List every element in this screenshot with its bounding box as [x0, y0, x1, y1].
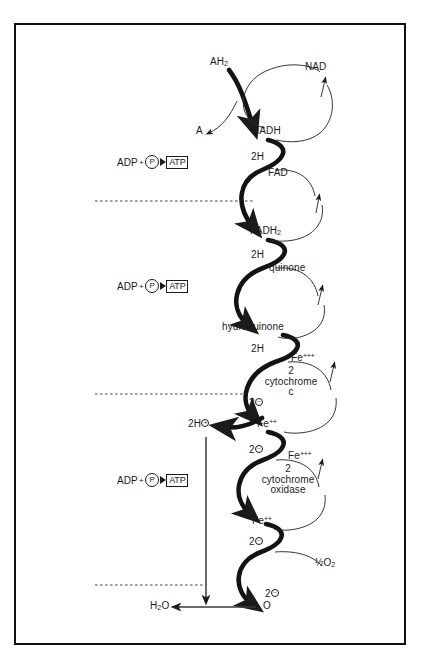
label-nadh: NADH: [252, 126, 281, 137]
plus-sign: +: [139, 476, 144, 485]
label-fe2-cytc: Fe++: [257, 418, 276, 429]
plus-sign: +: [139, 158, 144, 167]
label-fe2-cytox: Fe++: [252, 515, 271, 526]
label-2e-second: 2−: [249, 445, 263, 456]
label-quinone: quinone: [269, 263, 305, 274]
cytox-return: [274, 495, 325, 530]
nad-loop-upper: [243, 65, 320, 128]
atp-label: ATP: [166, 280, 188, 293]
nad-return-arrow: [276, 85, 332, 142]
label-2e-first: 2−: [249, 398, 263, 409]
diagram-pathways: [0, 0, 421, 665]
adp-label: ADP: [117, 157, 138, 168]
figure-root: AH2 A NAD NADH 2H FAD FADH2 2H quinone h…: [0, 0, 421, 665]
label-2h-second: 2H: [251, 250, 264, 261]
minus-charge-icon: −: [255, 537, 263, 545]
label-nad: NAD: [305, 62, 326, 73]
terminal-arrows: [176, 437, 256, 607]
label-fadh2: FADH2: [250, 226, 281, 237]
cytc-return: [284, 398, 336, 433]
adp-label: ADP: [117, 475, 138, 486]
atp-synthesis-site-1: ADP + P ATP: [117, 155, 188, 169]
cytc-arrowhead-stub: [330, 365, 334, 382]
label-half-oxygen: ½O2: [315, 558, 335, 569]
label-cytochrome-c: 2 cytochrome c: [255, 366, 327, 398]
plus-sign: +: [139, 282, 144, 291]
atp-label: ATP: [166, 156, 188, 169]
label-fe3-cytox: Fe+++: [288, 450, 311, 461]
adp-label: ADP: [117, 281, 138, 292]
minus-charge-icon: −: [255, 398, 263, 406]
label-fad: FAD: [268, 168, 288, 179]
label-water: H2O: [150, 601, 169, 612]
minus-charge-icon: −: [255, 445, 263, 453]
fad-arrowhead-stub: [316, 197, 319, 213]
phosphate-icon: P: [145, 155, 159, 169]
ah2-to-nadh-path: [229, 70, 253, 126]
label-2h-plus: 2H+: [188, 419, 209, 430]
minus-charge-icon: −: [271, 589, 279, 597]
label-2e-fourth: 2−: [265, 589, 279, 600]
plus-charge-icon: +: [201, 419, 209, 427]
phosphate-icon: P: [145, 473, 159, 487]
phosphate-icon: P: [145, 279, 159, 293]
atp-label: ATP: [166, 474, 188, 487]
label-hydroquinone: hydroquinone: [222, 322, 284, 333]
quinone-arrowhead-stub: [318, 288, 322, 305]
label-2h-first: 2H: [251, 152, 264, 163]
label-2e-third: 2−: [249, 537, 263, 548]
dashed-membrane-lines: [95, 201, 253, 585]
label-a-product: A: [196, 126, 203, 137]
label-cytochrome-oxidase: 2 cytochrome oxidase: [250, 464, 326, 496]
atp-synthesis-site-3: ADP + P ATP: [117, 473, 188, 487]
atp-synthesis-site-2: ADP + P ATP: [117, 279, 188, 293]
nad-arrowhead-stub: [321, 80, 325, 97]
label-ah2: AH2: [210, 57, 228, 68]
label-fe3-cytc: Fe+++: [291, 352, 314, 363]
a-product-arrow: [209, 101, 237, 133]
label-oxygen-atom: O: [263, 601, 271, 612]
label-2h-third: 2H: [251, 344, 264, 355]
